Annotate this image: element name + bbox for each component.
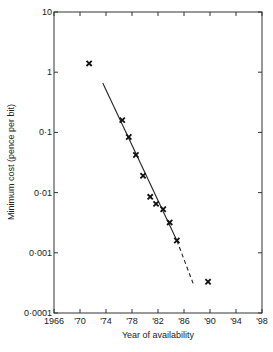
trend-lines: [103, 83, 193, 283]
y-tick-label: 10: [42, 7, 52, 17]
x-tick-label: '98: [256, 316, 268, 326]
x-axis-title: Year of availability: [122, 330, 195, 340]
x-marker-icon: [205, 279, 210, 284]
x-tick-label: '86: [178, 316, 190, 326]
x-tick-label: '82: [152, 316, 164, 326]
y-tick-label: 0·001: [29, 248, 52, 258]
y-tick-label: 0·01: [34, 188, 52, 198]
y-axis-title: Minimum cost (pence per bit): [6, 104, 16, 220]
trend-line-dashed: [177, 241, 193, 284]
data-points: [87, 61, 211, 285]
y-tick-label: 1: [47, 67, 52, 77]
x-marker-icon: [174, 238, 179, 243]
x-tick-label: '74: [100, 316, 112, 326]
x-tick-label: '94: [230, 316, 242, 326]
x-tick-label: '78: [126, 316, 138, 326]
x-marker-icon: [148, 194, 153, 199]
x-tick-label: 1966: [44, 316, 64, 326]
trend-line-solid: [103, 83, 177, 240]
x-tick-label: '70: [74, 316, 86, 326]
y-axis: 1010·10·010·0010·0001: [24, 7, 262, 318]
x-marker-icon: [87, 61, 92, 66]
x-marker-icon: [140, 173, 145, 178]
x-marker-icon: [153, 201, 158, 206]
y-tick-label: 0·1: [39, 127, 52, 137]
x-tick-label: '90: [204, 316, 216, 326]
plot-border: [54, 12, 262, 313]
plot-frame: [54, 12, 262, 313]
x-axis: 1966'70'74'78'82'86'90'94'98: [44, 12, 268, 326]
cost-vs-year-chart: 1010·10·010·0010·0001 1966'70'74'78'82'8…: [0, 0, 273, 352]
